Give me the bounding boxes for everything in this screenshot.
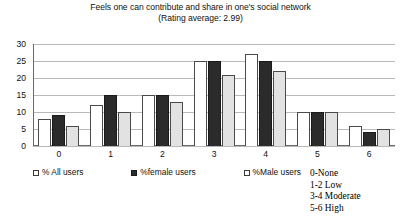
x-axis-tick-label: 3 bbox=[188, 149, 240, 159]
bar[interactable] bbox=[377, 129, 390, 146]
gridline bbox=[33, 146, 395, 147]
legend-item[interactable]: %female users bbox=[131, 168, 195, 177]
y-axis-labels: 302520151050 bbox=[0, 44, 30, 146]
bar[interactable] bbox=[363, 132, 376, 146]
y-axis-tick-label: 15 bbox=[16, 91, 26, 99]
bar[interactable] bbox=[156, 95, 169, 146]
bar-group bbox=[136, 44, 188, 146]
bar-group bbox=[188, 44, 240, 146]
bar[interactable] bbox=[52, 115, 65, 146]
legend-swatch-icon bbox=[244, 170, 250, 176]
y-axis-tick-label: 0 bbox=[21, 142, 26, 150]
x-axis-tick-label: 6 bbox=[343, 149, 395, 159]
bar-group bbox=[240, 44, 292, 146]
annotation-line: 3-4 Moderate bbox=[310, 191, 400, 203]
bar[interactable] bbox=[325, 112, 338, 146]
x-axis-tick-label: 1 bbox=[85, 149, 137, 159]
legend-swatch-icon bbox=[33, 170, 39, 176]
x-axis-tick-label: 0 bbox=[33, 149, 85, 159]
chart-subtitle: (Rating average: 2.99) bbox=[0, 13, 401, 24]
bar[interactable] bbox=[142, 95, 155, 146]
bar[interactable] bbox=[297, 112, 310, 146]
bar[interactable] bbox=[222, 75, 235, 146]
bar[interactable] bbox=[104, 95, 117, 146]
legend-item[interactable]: % All users bbox=[33, 168, 83, 177]
bar[interactable] bbox=[118, 112, 131, 146]
bar-chart: Feels one can contribute and share in on… bbox=[0, 0, 401, 224]
legend-label: %Male users bbox=[253, 168, 301, 177]
x-axis-labels: 0123456 bbox=[33, 149, 395, 159]
chart-title-main: Feels one can contribute and share in on… bbox=[0, 2, 401, 13]
bar[interactable] bbox=[194, 61, 207, 146]
bar[interactable] bbox=[349, 126, 362, 146]
rating-scale-annotation: 0-None1-2 Low3-4 Moderate5-6 High bbox=[310, 168, 400, 214]
annotation-line: 5-6 High bbox=[310, 203, 400, 215]
bar[interactable] bbox=[245, 54, 258, 146]
chart-title: Feels one can contribute and share in on… bbox=[0, 2, 401, 24]
bar[interactable] bbox=[170, 102, 183, 146]
annotation-line: 1-2 Low bbox=[310, 180, 400, 192]
bar-group bbox=[292, 44, 344, 146]
bar[interactable] bbox=[38, 119, 51, 146]
bar[interactable] bbox=[259, 61, 272, 146]
legend-label: %female users bbox=[140, 168, 195, 177]
y-axis-tick-label: 30 bbox=[16, 40, 26, 48]
x-axis-tick-label: 5 bbox=[292, 149, 344, 159]
y-axis-tick-label: 25 bbox=[16, 57, 26, 65]
bar[interactable] bbox=[90, 105, 103, 146]
bar-group bbox=[343, 44, 395, 146]
chart-legend: % All users%female users%Male users bbox=[33, 168, 301, 177]
legend-swatch-icon bbox=[131, 170, 137, 176]
bar-group bbox=[33, 44, 85, 146]
legend-label: % All users bbox=[42, 168, 83, 177]
bar[interactable] bbox=[273, 71, 286, 146]
annotation-line: 0-None bbox=[310, 168, 400, 180]
bar[interactable] bbox=[66, 126, 79, 146]
x-axis-tick-label: 2 bbox=[136, 149, 188, 159]
x-axis-tick-label: 4 bbox=[240, 149, 292, 159]
legend-item[interactable]: %Male users bbox=[244, 168, 301, 177]
bar[interactable] bbox=[208, 61, 221, 146]
y-axis-tick-label: 20 bbox=[16, 74, 26, 82]
bar-group bbox=[85, 44, 137, 146]
plot-area bbox=[33, 44, 395, 146]
bar-groups bbox=[33, 44, 395, 146]
y-axis-tick-label: 5 bbox=[21, 125, 26, 133]
y-axis-tick-label: 10 bbox=[16, 108, 26, 116]
bar[interactable] bbox=[311, 112, 324, 146]
